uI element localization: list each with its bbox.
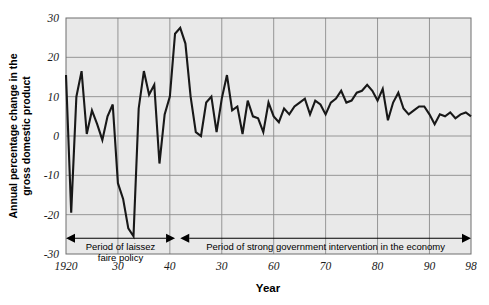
y-tick-label: -20 [44, 209, 60, 221]
x-tick-label: 70 [320, 260, 332, 272]
y-tick-label: 10 [48, 91, 60, 103]
x-tick-label: 40 [164, 260, 176, 272]
x-tick-label: 90 [424, 260, 436, 272]
government-intervention-label: Period of strong government intervention… [206, 241, 445, 252]
x-tick-label: 80 [372, 260, 384, 272]
y-axis-title-line1: Annual percentage change in the [7, 53, 19, 218]
x-tick-label: 98 [465, 260, 477, 272]
x-axis-title: Year [256, 282, 281, 294]
laissez-faire-label-line1: Period of laissez [86, 241, 156, 252]
chart-figure: 3020100-10-20-30 19203040306070809098 Pe… [0, 0, 489, 305]
x-tick-label: 60 [268, 260, 280, 272]
x-tick-label: 30 [215, 260, 228, 272]
y-tick-label: 30 [47, 12, 60, 24]
laissez-faire-label-line2: faire policy [98, 252, 144, 263]
gdp-line-chart: 3020100-10-20-30 19203040306070809098 Pe… [0, 0, 489, 305]
y-tick-label: -10 [44, 169, 60, 181]
x-tick-label: 1920 [55, 260, 78, 272]
y-tick-label: 20 [48, 51, 60, 63]
y-tick-label: -30 [44, 248, 60, 260]
y-axis-title-line2: gross domestic product [20, 76, 32, 196]
y-tick-label: 0 [53, 130, 59, 142]
